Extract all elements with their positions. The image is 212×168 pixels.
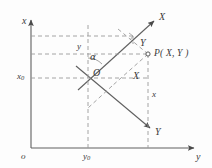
- dashed-Yfoot-extension: [88, 86, 112, 108]
- X-axis-arrow-label: X: [159, 12, 165, 22]
- drop-y-label: y: [77, 42, 81, 51]
- y-axis-arrow-label: y: [196, 152, 200, 162]
- figure-canvas: [0, 0, 212, 168]
- dashed-P-to-Yaxis: [112, 54, 148, 86]
- point-P-label: P( X, Y ): [154, 49, 189, 59]
- x-axis-arrow-label: x: [22, 16, 26, 26]
- y0-tick-subscript: 0: [87, 154, 90, 161]
- local-origin-label: O: [93, 68, 100, 78]
- point-P-marker: [146, 52, 150, 56]
- global-origin-label: o: [21, 152, 26, 161]
- x0-tick-subscript: 0: [21, 74, 24, 81]
- Y-axis-arrow-label: Y: [155, 127, 161, 137]
- drop-x-label: x: [152, 90, 156, 99]
- coordinate-transformation-figure: x y o x0 y0 X Y O α P( X, Y ) y x Y X: [0, 0, 212, 168]
- y0-tick-label: y0: [83, 152, 90, 162]
- angle-alpha-label: α: [90, 53, 96, 62]
- projection-Y-label: Y: [140, 38, 146, 48]
- projection-X-label: X: [133, 71, 139, 81]
- x0-tick-label: x0: [17, 72, 24, 82]
